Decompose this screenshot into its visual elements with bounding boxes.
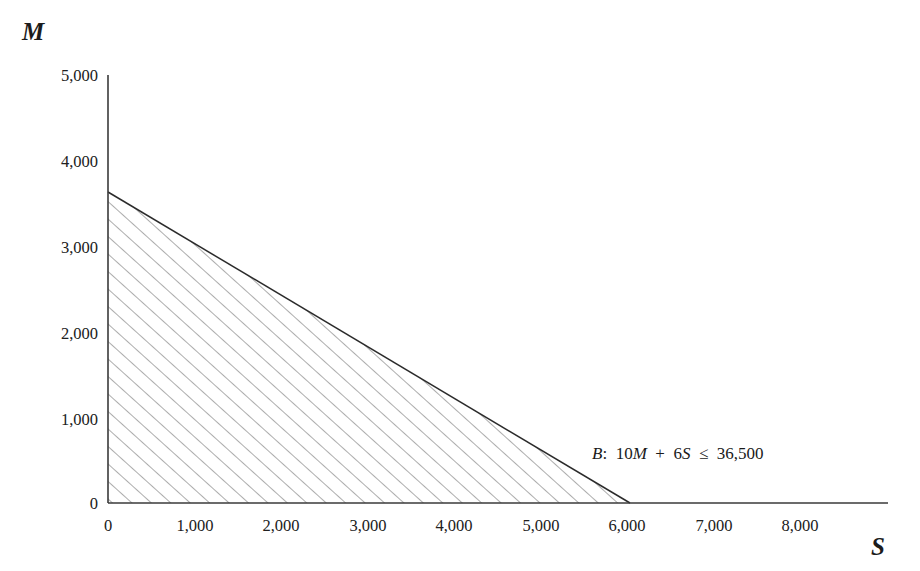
y-tick-label: 2,000: [20, 324, 98, 344]
y-tick-label: 4,000: [20, 152, 98, 172]
x-tick-label: 5,000: [501, 516, 581, 536]
x-tick-label: 7,000: [674, 516, 754, 536]
annotation-coef-s: 6: [673, 444, 682, 463]
plot-area: [0, 0, 920, 571]
x-tick-label: 0: [68, 516, 148, 536]
x-tick-label: 6,000: [587, 516, 667, 536]
y-tick-label: 3,000: [20, 238, 98, 258]
y-tick-label: 1,000: [20, 410, 98, 430]
x-tick-label: 1,000: [155, 516, 235, 536]
annotation-var-s: S: [682, 444, 691, 463]
x-tick-label: 4,000: [414, 516, 494, 536]
annotation-colon: :: [602, 444, 607, 463]
annotation-coef-m: 10: [616, 444, 633, 463]
annotation-rhs: 36,500: [717, 444, 764, 463]
annotation-constraint-name: B: [592, 444, 602, 463]
x-tick-label: 3,000: [328, 516, 408, 536]
constraint-region-chart: M S 5,000 4,000 3,000 2,000 1,000 0 0 1,…: [0, 0, 920, 571]
x-tick-label: 8,000: [760, 516, 840, 536]
annotation-var-m: M: [633, 444, 647, 463]
annotation-relation: ≤: [699, 444, 708, 463]
annotation-plus: +: [655, 444, 665, 463]
y-tick-label: 5,000: [20, 66, 98, 86]
y-tick-label: 0: [20, 494, 98, 514]
x-tick-label: 2,000: [241, 516, 321, 536]
constraint-annotation: B: 10M + 6S ≤ 36,500: [592, 444, 763, 464]
